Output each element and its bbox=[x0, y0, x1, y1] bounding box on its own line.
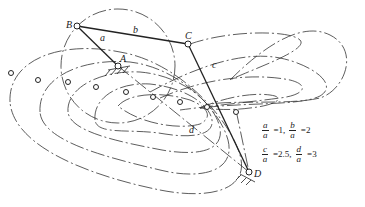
tracer-line bbox=[118, 66, 249, 172]
link-c bbox=[188, 44, 249, 172]
coupler-curve-7 bbox=[210, 31, 347, 104]
ratio-legend: a a =1, b a =2 c a =2.5, d a =3 bbox=[262, 118, 317, 166]
ratio-a-over-a: a a bbox=[262, 121, 269, 140]
ratio-row-2: c a =2.5, d a =3 bbox=[262, 142, 317, 166]
label-link-c: c bbox=[212, 59, 217, 70]
label-a-joint: A bbox=[119, 53, 127, 64]
joint-d bbox=[246, 169, 252, 175]
ratio-c-over-a: c a bbox=[262, 145, 268, 164]
coupler-curve-2 bbox=[40, 61, 229, 174]
coupler-curve-6 bbox=[190, 33, 301, 80]
coupler-curve-8 bbox=[150, 56, 326, 108]
label-d-joint: D bbox=[253, 168, 262, 179]
label-link-a: a bbox=[100, 32, 105, 43]
ratio-b-over-a: b a bbox=[289, 121, 296, 140]
label-c-joint: C bbox=[185, 30, 192, 41]
linkage-diagram: B A C D a b c d bbox=[0, 0, 365, 207]
ground-hatch-d bbox=[236, 174, 255, 185]
ratio-row-1: a a =1, b a =2 bbox=[262, 118, 317, 142]
label-link-b: b bbox=[133, 24, 138, 35]
ratio-d-over-a: d a bbox=[296, 145, 303, 164]
label-b-joint: B bbox=[66, 19, 72, 30]
joint-b bbox=[74, 23, 80, 29]
joint-c bbox=[185, 41, 191, 47]
